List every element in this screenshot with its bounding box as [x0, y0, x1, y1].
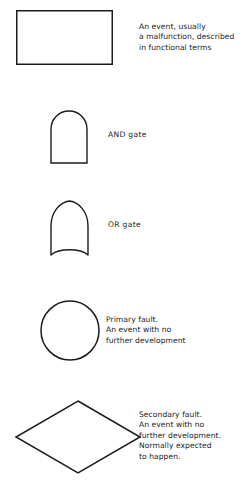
circle-symbol-caption: Primary fault. An event with no further …: [106, 315, 186, 346]
rectangle-symbol-caption: An event, usually a malfunction, describ…: [139, 22, 234, 53]
and-gate-symbol: [50, 110, 88, 164]
bottom-scan-artifact: [0, 479, 252, 487]
or-gate-label: OR gate: [108, 220, 141, 230]
or-gate-symbol: [50, 200, 89, 256]
diamond-symbol-caption: Secondary fault. An event with no furthe…: [139, 410, 221, 462]
rectangle-symbol: [16, 10, 113, 65]
and-gate-label: AND gate: [108, 130, 147, 140]
circle-symbol: [40, 300, 100, 361]
diamond-symbol: [15, 400, 141, 474]
fault-tree-symbol-legend: An event, usually a malfunction, describ…: [0, 0, 252, 487]
